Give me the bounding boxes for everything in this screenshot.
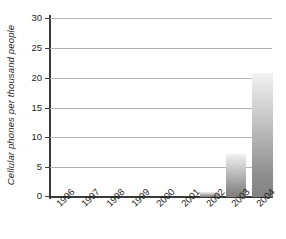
ytick-label-30: 30 <box>20 13 42 23</box>
bar-chart-figure: Cellular phones per thousand people 30 2… <box>0 0 286 239</box>
ytick-label-10: 10 <box>20 132 42 142</box>
bars-layer <box>50 18 273 197</box>
ytick-label-0: 0 <box>20 191 42 201</box>
ytick-label-5: 5 <box>20 162 42 172</box>
ytick-label-20: 20 <box>20 73 42 83</box>
ytick-label-25: 25 <box>20 43 42 53</box>
y-axis-title: Cellular phones per thousand people <box>4 5 18 205</box>
ytick-label-15: 15 <box>20 103 42 113</box>
